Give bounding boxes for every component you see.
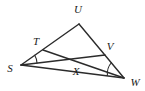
vertex-label-v: V: [107, 40, 115, 52]
vertex-label-t: T: [33, 35, 40, 47]
geometry-canvas: S U W T V X: [0, 0, 145, 91]
vertex-label-u: U: [74, 3, 83, 15]
angle-mark-s: [35, 55, 37, 63]
vertex-label-w: W: [130, 76, 140, 88]
geometry-figure: S U W T V X: [0, 0, 145, 91]
vertex-label-s: S: [7, 62, 13, 74]
vertex-label-x: X: [72, 65, 81, 77]
